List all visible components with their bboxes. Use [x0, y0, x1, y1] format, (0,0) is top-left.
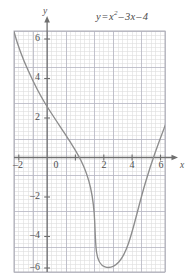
x-tick-label-2: 2	[97, 159, 111, 170]
x-axis-arrowhead	[172, 155, 179, 161]
y-tick-label-neg2: –2	[26, 190, 44, 201]
x-tick-label-6: 6	[154, 159, 168, 170]
equation-annotation: y=x2–3x–4	[96, 9, 148, 22]
y-tick-label-neg4: –4	[26, 229, 44, 240]
y-axis-label: y	[43, 6, 47, 16]
equation-term2: 3x	[125, 11, 135, 22]
y-tick-label-neg6: –6	[26, 261, 44, 272]
equation-sign-2: –	[118, 11, 125, 22]
x-tick-label-neg2: –2	[9, 159, 27, 170]
x-tick-label-0: 0	[49, 159, 63, 170]
equation-equals: =	[101, 11, 109, 22]
x-axis-label: x	[180, 160, 184, 170]
y-tick-label-4: 4	[31, 71, 44, 82]
y-tick-label-6: 6	[31, 32, 44, 43]
equation-sign-3: –	[135, 11, 142, 22]
y-tick-label-2: 2	[31, 111, 44, 122]
graph-figure: y=x2–3x–4 x y –2 0 2 4 6 6 4 2 –2 –4 –6	[0, 0, 189, 280]
equation-term3: 4	[143, 11, 148, 22]
x-tick-label-4: 4	[125, 159, 139, 170]
y-axis-arrowhead	[44, 16, 50, 23]
